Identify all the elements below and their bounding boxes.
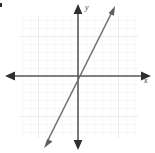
x-axis-label: x — [144, 77, 148, 85]
y-axis-label: y — [85, 4, 89, 12]
graph-figure: y x — [0, 0, 155, 153]
line-arrow-upper-right-icon — [109, 6, 115, 16]
line-arrow-lower-left-icon — [44, 139, 53, 148]
x-axis-arrow-left-icon — [5, 72, 15, 81]
y-axis-arrow-down-icon — [74, 140, 83, 150]
coordinate-plane-svg — [0, 0, 155, 153]
y-axis-arrow-up-icon — [74, 4, 83, 14]
corner-mark — [0, 3, 2, 7]
